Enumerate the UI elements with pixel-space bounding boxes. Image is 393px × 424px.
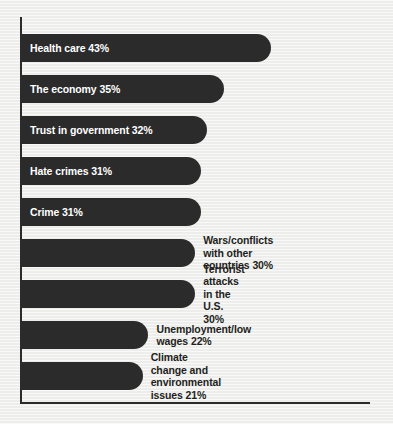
bar [20,280,195,308]
bar-category-label: Wars/conflicts with other [203,234,273,259]
bar-value-label: 35% [99,83,120,95]
bar-label-inside: The economy 35% [30,75,120,103]
bar-category-label: Climate change and environmental [151,351,221,388]
bar-label-text: Hate crimes 31% [30,165,112,177]
bar-label-outside: Climate change and environmentalissues 2… [151,362,221,390]
bar-label-text: Terrorist attacks in the U.S. 30% [203,263,245,326]
bar-label-inside: Health care 43% [30,34,109,62]
bar-value-label: 31% [91,165,112,177]
bar-category-label: The economy [30,83,99,95]
bar-label-inside: Trust in government 32% [30,116,153,144]
bar-label-inside: Hate crimes 31% [30,157,112,185]
bar-category-label: Hate crimes [30,165,91,177]
bar-label-inside: Crime 31% [30,198,83,226]
bar-value-label: 22% [191,335,212,347]
bar-category-label: Health care [30,42,88,54]
x-axis-baseline [20,402,370,404]
bar-chart: Health care 43%The economy 35%Trust in g… [0,0,393,424]
bar-label-text: Crime 31% [30,206,83,218]
bar-category-label: Terrorist attacks in the U.S. [203,263,245,313]
bar-label-text: Unemployment/low wages 22% [156,323,251,348]
bar-label-outside: Unemployment/low wages 22% [156,321,251,349]
bar [20,321,148,349]
bar-category-label: Crime [30,206,62,218]
bar-category-label: Trust in government [30,124,132,136]
bar-value-label: 21% [186,389,207,401]
plot-area: Health care 43%The economy 35%Trust in g… [0,0,393,424]
bar-label-text: Health care 43% [30,42,109,54]
bar-label-text: The economy 35% [30,83,120,95]
bar-category-label: issues [151,389,186,401]
bar-label-outside: Terrorist attacks in the U.S. 30% [203,280,245,308]
bar-value-label: 43% [88,42,109,54]
bar-value-label: 32% [132,124,153,136]
bar-value-label: 30% [252,259,273,271]
bar [20,362,143,390]
bar-label-text: Climate change and environmentalissues 2… [151,351,221,401]
bar-label-text: Trust in government 32% [30,124,153,136]
bar [20,239,195,267]
bar-value-label: 31% [62,206,83,218]
